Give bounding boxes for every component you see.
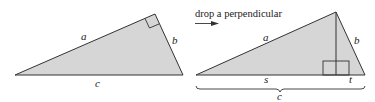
left-triangle-shape xyxy=(15,14,183,75)
label-a: a xyxy=(263,31,269,43)
label-a: a xyxy=(81,30,87,42)
label-c: c xyxy=(95,77,100,89)
transition-caption: drop a perpendicular xyxy=(195,8,282,26)
triangle-diagram: a b c drop a perpendicular a b s t c xyxy=(0,0,375,102)
label-b: b xyxy=(354,34,360,46)
label-c: c xyxy=(277,90,282,102)
right-triangle-shape xyxy=(196,12,365,75)
right-triangle-with-altitude: a b s t c xyxy=(196,12,365,102)
arrow-right-icon xyxy=(211,21,219,26)
left-right-triangle: a b c xyxy=(15,14,183,89)
label-s: s xyxy=(264,73,268,85)
label-b: b xyxy=(172,34,178,46)
caption-text: drop a perpendicular xyxy=(195,8,282,19)
